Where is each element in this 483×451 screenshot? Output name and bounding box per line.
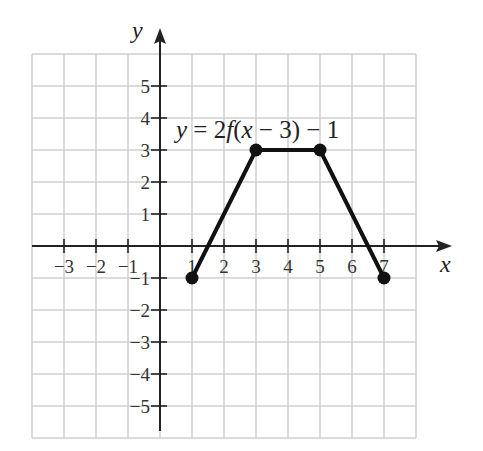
data-point (250, 144, 263, 157)
y-tick-label: −3 (130, 332, 150, 353)
data-point (186, 272, 199, 285)
y-tick-label: 1 (141, 204, 151, 225)
x-tick-label: 4 (283, 256, 293, 277)
graph: −3−2−11234567−5−4−3−2−112345 x y y = 2f(… (0, 0, 483, 451)
y-tick-label: −4 (130, 364, 151, 385)
equation-annotation: y = 2f(x − 3) − 1 (173, 116, 339, 144)
y-tick-label: −1 (130, 268, 150, 289)
y-tick-label: 3 (141, 140, 151, 161)
x-tick-label: 3 (251, 256, 261, 277)
y-tick-label: −5 (130, 396, 150, 417)
x-tick-label: 2 (219, 256, 229, 277)
y-tick-label: −2 (130, 300, 150, 321)
y-axis-label: y (130, 17, 143, 43)
x-tick-label: 6 (347, 256, 357, 277)
x-tick-label: −2 (86, 256, 106, 277)
y-tick-label: 2 (141, 172, 151, 193)
data-point (314, 144, 327, 157)
x-tick-label: 5 (315, 256, 325, 277)
y-tick-label: 5 (141, 76, 151, 97)
x-axis-label: x (439, 251, 451, 277)
axes (32, 28, 452, 431)
y-tick-label: 4 (141, 108, 151, 129)
data-point (378, 272, 391, 285)
x-tick-label: −3 (54, 256, 74, 277)
